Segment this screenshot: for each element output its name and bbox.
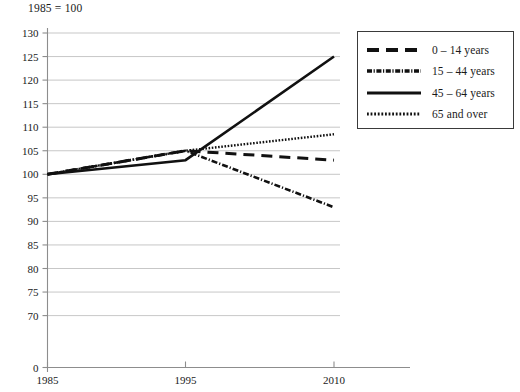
legend-item-label: 65 and over [432,108,487,120]
x-tick-label: 2010 [323,374,346,386]
y-tick-labels-group: 1301251201151101051009590858075700 [22,27,39,374]
data-series-group [48,57,335,208]
y-tick-label: 95 [28,192,40,204]
chart-legend: 0 – 14 years15 – 44 years45 – 64 years65… [357,31,514,129]
y-tick-label: 85 [28,239,40,251]
y-tick-label: 120 [22,74,39,86]
x-tick-label: 1985 [37,374,60,386]
y-tick-label: 110 [22,121,39,133]
series-line-solid [48,57,335,175]
legend-item[interactable]: 65 and over [366,104,487,125]
x-tick-labels-group: 198519952010 [37,374,346,386]
y-tick-label: 100 [22,168,39,180]
y-tick-label: 125 [22,51,39,63]
legend-swatch-dotted-icon [366,107,422,121]
legend-swatch-dashed-icon [366,43,422,57]
tick-marks-group [43,33,335,368]
legend-swatch-solid-icon [366,86,422,100]
y-tick-label: 130 [22,27,39,39]
x-tick-label: 1995 [175,374,198,386]
chart-container: 1985 = 100 13012512011511010510095908580… [0,0,520,392]
legend-item-label: 15 – 44 years [432,65,495,77]
y-tick-label: 75 [28,286,40,298]
legend-item-label: 0 – 14 years [432,44,489,56]
legend-swatch-dash-dot-icon [366,64,422,78]
y-tick-label: 115 [22,98,39,110]
y-tick-label: 0 [33,362,39,374]
legend-item[interactable]: 45 – 64 years [366,82,495,103]
y-tick-label: 70 [28,310,40,322]
y-tick-label: 80 [28,263,40,275]
gridlines-group [48,33,341,316]
legend-item[interactable]: 15 – 44 years [366,61,495,82]
y-tick-label: 90 [28,215,40,227]
y-tick-label: 105 [22,145,39,157]
legend-item[interactable]: 0 – 14 years [366,39,489,60]
series-line-dash-dot [48,151,335,208]
legend-item-label: 45 – 64 years [432,87,495,99]
